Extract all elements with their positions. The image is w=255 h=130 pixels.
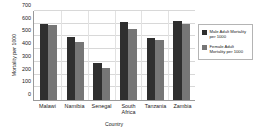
bar-group: [88, 11, 115, 100]
y-axis-tick-label: 100: [22, 78, 31, 84]
legend: Male Adult Mortality per 1000 Female Adu…: [198, 24, 253, 60]
y-axis-tick-label: 500: [22, 27, 31, 33]
x-axis-tick-label: Zambia: [169, 103, 196, 115]
bar-group: [142, 11, 169, 100]
bar[interactable]: [120, 22, 129, 100]
bar[interactable]: [40, 24, 49, 100]
plot-area: 0100200300400500600700: [33, 11, 195, 101]
y-axis-tick-label: 400: [22, 40, 31, 46]
bar[interactable]: [67, 37, 76, 100]
bar-group: [168, 11, 195, 100]
bar[interactable]: [93, 63, 102, 101]
bar[interactable]: [128, 29, 137, 100]
x-axis-tick-label: Malawi: [34, 103, 61, 115]
legend-label-male: Male Adult Mortality per 1000: [210, 29, 251, 39]
y-axis-tick-label: 200: [22, 66, 31, 72]
y-axis-tick-label: 700: [22, 2, 31, 8]
bar-group: [35, 11, 62, 100]
bar[interactable]: [173, 21, 182, 100]
bar-chart: Mortality per 1000 010020030040050060070…: [0, 0, 255, 130]
bar[interactable]: [48, 25, 57, 100]
bar[interactable]: [182, 24, 191, 100]
legend-item-male[interactable]: Male Adult Mortality per 1000: [201, 29, 250, 39]
x-axis-tick-label: Senegal: [88, 103, 115, 115]
bar[interactable]: [75, 42, 84, 100]
x-axis-tick-label: Namibia: [61, 103, 88, 115]
legend-item-female[interactable]: Female Adult Mortality per 1000: [201, 44, 250, 54]
y-axis-tick-label: 0: [28, 91, 31, 97]
x-axis-tick-label: Tanzania: [142, 103, 169, 115]
legend-swatch-male-icon: [202, 30, 207, 35]
bar-group: [115, 11, 142, 100]
bar[interactable]: [155, 40, 164, 100]
bar-group: [62, 11, 89, 100]
y-axis-tick-label: 600: [22, 15, 31, 21]
legend-swatch-female-icon: [202, 45, 207, 50]
bar[interactable]: [147, 38, 156, 100]
x-axis-tick-label: South Africa: [115, 103, 142, 115]
x-axis-labels: MalawiNamibiaSenegalSouth AfricaTanzania…: [34, 103, 196, 115]
bar[interactable]: [102, 68, 111, 100]
bar-groups: [35, 11, 195, 100]
y-axis-title: Mortality per 1000: [11, 15, 17, 95]
legend-label-female: Female Adult Mortality per 1000: [210, 44, 251, 54]
x-axis-title: Country: [33, 121, 195, 127]
y-axis-tick-label: 300: [22, 53, 31, 59]
